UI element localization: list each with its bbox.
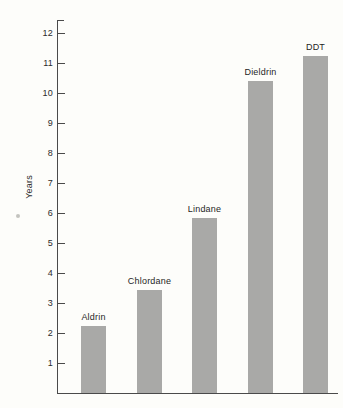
bar-label-aldrin: Aldrin	[81, 313, 105, 322]
y-tick-label-8: 8	[13, 149, 53, 158]
y-tick-2	[58, 333, 65, 334]
bar-dieldrin	[248, 81, 273, 393]
y-axis-line	[57, 20, 58, 394]
bar-label-chlordane: Chlordane	[128, 277, 171, 286]
y-tick-label-1: 1	[13, 359, 53, 368]
bar-chart: Years 123456789101112 AldrinChlordaneLin…	[0, 0, 343, 408]
y-tick-label-11: 11	[13, 59, 53, 68]
y-tick-label-12: 12	[13, 29, 53, 38]
plot-area: Years 123456789101112 AldrinChlordaneLin…	[0, 0, 343, 408]
y-tick-7	[58, 183, 65, 184]
y-tick-label-7: 7	[13, 179, 53, 188]
x-axis-line	[57, 393, 338, 394]
y-tick-1	[58, 363, 65, 364]
bar-label-ddt: DDT	[306, 43, 325, 52]
y-tick-6	[58, 213, 65, 214]
y-tick-12	[58, 33, 65, 34]
y-tick-label-2: 2	[13, 329, 53, 338]
y-tick-3	[58, 303, 65, 304]
bar-ddt	[303, 56, 328, 394]
y-tick-label-4: 4	[13, 269, 53, 278]
bar-aldrin	[81, 326, 106, 394]
bar-chlordane	[137, 290, 162, 394]
y-tick-8	[58, 153, 65, 154]
y-tick-label-5: 5	[13, 239, 53, 248]
y-axis-top-cap	[57, 20, 64, 21]
y-tick-label-9: 9	[13, 119, 53, 128]
y-tick-label-6: 6	[13, 209, 53, 218]
y-tick-label-3: 3	[13, 299, 53, 308]
y-tick-4	[58, 273, 65, 274]
bar-lindane	[192, 218, 217, 394]
y-tick-label-10: 10	[13, 89, 53, 98]
bar-label-lindane: Lindane	[188, 205, 221, 214]
y-tick-5	[58, 243, 65, 244]
y-tick-10	[58, 93, 65, 94]
y-tick-11	[58, 63, 65, 64]
bar-label-dieldrin: Dieldrin	[244, 68, 276, 77]
y-tick-9	[58, 123, 65, 124]
